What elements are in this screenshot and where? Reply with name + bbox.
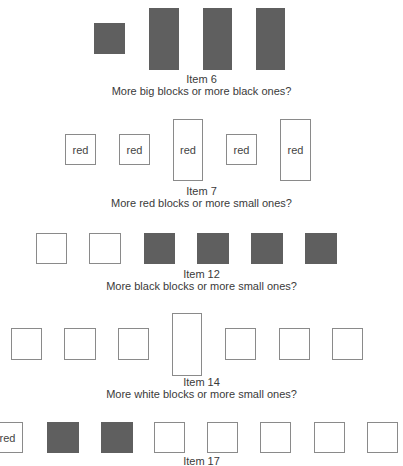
white-block: red [119,134,150,165]
item-caption: Item 7More red blocks or more small ones… [0,185,403,209]
white-block [207,422,238,453]
white-block: red [65,134,96,165]
white-block [89,233,121,264]
black-block [47,422,79,453]
white-block [367,422,398,453]
item-caption: Item 12More black blocks or more small o… [0,268,403,292]
white-block [314,422,345,453]
item-question: More black blocks or more small ones? [0,280,403,292]
black-block [149,8,179,70]
white-block [332,328,363,360]
white-block: red [173,119,203,181]
black-block [144,233,175,264]
white-block: red [280,119,311,181]
black-block [256,8,285,70]
white-block: red [0,422,23,453]
white-block [11,328,42,360]
item-label: Item 12 [0,268,403,280]
white-block [64,328,96,360]
item-label: Item 6 [0,73,403,85]
item-caption: Item 17 [0,455,403,466]
item-question: More big blocks or more black ones? [0,85,403,97]
item-question: More white blocks or more small ones? [0,388,403,400]
black-block [101,422,133,453]
black-block [203,8,232,70]
item-question: More red blocks or more small ones? [0,197,403,209]
item-label: Item 17 [0,455,403,466]
white-block [279,328,310,360]
black-block [94,23,125,54]
white-block [260,422,291,453]
item-caption: Item 14More white blocks or more small o… [0,376,403,400]
white-block [154,422,185,453]
item-label: Item 14 [0,376,403,388]
white-block [172,313,202,376]
black-block [251,233,283,264]
white-block [36,233,67,264]
white-block [118,328,149,360]
black-block [305,233,337,264]
white-block: red [226,134,257,165]
white-block [225,328,256,360]
black-block [197,233,229,264]
item-caption: Item 6More big blocks or more black ones… [0,73,403,97]
item-label: Item 7 [0,185,403,197]
